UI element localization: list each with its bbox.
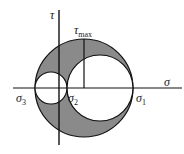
tau-max-subscript: max (78, 30, 92, 39)
tau-axis-label: τ (50, 8, 55, 22)
sigma1-label: σ1 (136, 91, 146, 107)
mohr-circle-diagram: τ σ τmax σ3 σ2 σ1 (0, 0, 184, 154)
sigma-axis-label: σ (164, 75, 171, 89)
tau-max-label: τmax (74, 23, 92, 39)
sigma3-label: σ3 (16, 91, 26, 107)
